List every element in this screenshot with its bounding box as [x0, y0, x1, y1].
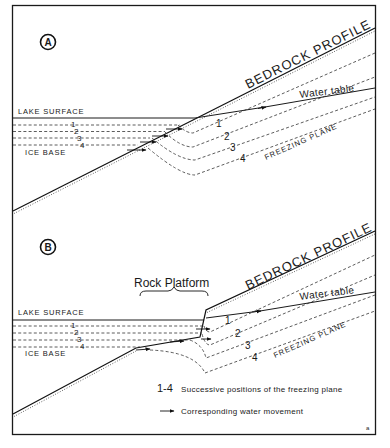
- ice-base-label: ICE BASE: [25, 148, 66, 157]
- bedrock-hatching: [14, 31, 376, 214]
- svg-text:4: 4: [240, 153, 246, 164]
- svg-text:2: 2: [224, 131, 230, 142]
- freezing-plane-3-ground: [152, 97, 375, 160]
- freezing-plane-label: FREEZING PLANE: [272, 320, 347, 360]
- svg-text:3: 3: [230, 142, 236, 153]
- bedrock-hatching: [14, 351, 136, 417]
- svg-text:1: 1: [225, 315, 231, 326]
- lake-surface-label: LAKE SURFACE: [18, 107, 84, 116]
- bedrock-hatching: [207, 234, 376, 313]
- legend: 1-4 Successive positions of the freezing…: [157, 382, 343, 416]
- legend-range-label: 1-4: [157, 382, 173, 394]
- freezing-plane-diagram: A BEDROCK PROFILE LAKE SURFACE ICE BASE …: [0, 0, 390, 448]
- water-table-arrow: [252, 311, 261, 312]
- water-movement-arrow: [136, 349, 150, 350]
- svg-text:1: 1: [216, 118, 222, 129]
- panel-b-marker: B: [41, 240, 56, 255]
- svg-text:A: A: [44, 37, 51, 48]
- svg-text:4: 4: [252, 352, 258, 363]
- freezing-plane-label: FREEZING PLANE: [263, 122, 338, 162]
- bedrock-profile-label: BEDROCK PROFILE: [243, 16, 374, 91]
- svg-text:4: 4: [80, 141, 85, 150]
- legend-range-text: Successive positions of the freezing pla…: [181, 385, 343, 394]
- freezing-plane-4-ground: [148, 109, 375, 175]
- svg-text:B: B: [44, 242, 51, 253]
- bedrock-profile-label: BEDROCK PROFILE: [243, 220, 374, 293]
- svg-text:2: 2: [235, 328, 241, 339]
- ice-base-label: ICE BASE: [25, 349, 66, 358]
- corner-mark: a: [366, 425, 370, 431]
- figure-frame: [13, 6, 376, 435]
- lake-surface-label: LAKE SURFACE: [18, 308, 84, 317]
- panel-a-marker: A: [41, 35, 56, 50]
- rock-platform-label: Rock Platform: [134, 276, 209, 290]
- legend-arrow-text: Corresponding water movement: [181, 407, 304, 416]
- svg-text:4: 4: [80, 342, 85, 351]
- panel-a: A BEDROCK PROFILE LAKE SURFACE ICE BASE …: [13, 16, 376, 213]
- water-table-label: Water table: [299, 82, 355, 100]
- water-movement-arrow: [170, 341, 184, 342]
- svg-text:3: 3: [245, 340, 251, 351]
